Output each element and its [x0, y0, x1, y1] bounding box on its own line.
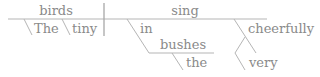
modifier-line-the-2: [172, 53, 183, 70]
prep-object-word: bushes: [160, 37, 206, 52]
subject-modifier-tiny: tiny: [72, 21, 98, 36]
modifier-line-the: [24, 19, 32, 35]
preposition-word: in: [140, 21, 153, 36]
modifier-line-tiny: [62, 19, 70, 35]
prep-object-modifier: the: [186, 55, 208, 70]
adverb-modifier-word: very: [248, 55, 278, 70]
adverb-word: cheerfully: [248, 21, 315, 36]
sentence-diagram: birds The tiny sing in bushes the cheerf…: [0, 0, 320, 77]
predicate-word: sing: [171, 3, 199, 18]
subject-word: birds: [39, 3, 73, 18]
subject-modifier-the: The: [34, 21, 59, 36]
adverb-modifier-line: [235, 37, 245, 70]
